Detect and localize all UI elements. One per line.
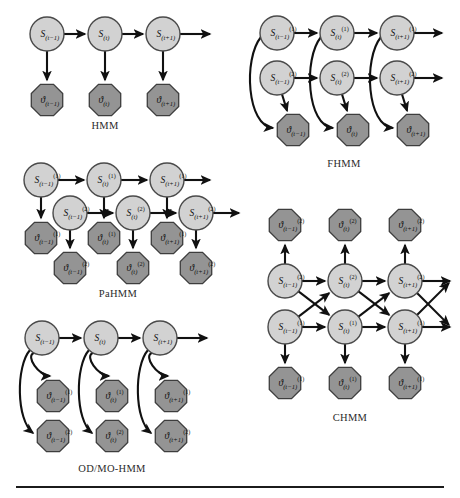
state-node: S(t−1) xyxy=(30,17,64,51)
edge-curved xyxy=(149,353,168,376)
state-node: S(t) xyxy=(88,17,122,51)
state-node: S(t−1)(2) xyxy=(53,196,89,230)
state-node: S(t+1)(1) xyxy=(380,16,416,50)
observation-node: ϑ(t+1)(1) xyxy=(389,367,424,398)
state-node: S(t+1)(2) xyxy=(388,264,424,298)
observation-node: ϑ(t+1)(1) xyxy=(155,380,190,411)
caption-pahmm: PaHMM xyxy=(58,288,178,299)
state-node: S(t)(2) xyxy=(116,196,150,230)
caption-chmm: CHMM xyxy=(290,412,410,423)
state-node: S(t) xyxy=(84,321,118,355)
observation-node: ϑ(t−1)(2) xyxy=(54,252,89,283)
observation-node: ϑ(t−1) xyxy=(277,114,308,145)
observation-node: ϑ(t−1)(1) xyxy=(25,222,60,253)
caption-odmohmm: OD/MO-HMM xyxy=(52,463,172,474)
edge xyxy=(298,291,329,314)
edge-curved xyxy=(138,350,151,433)
edge xyxy=(298,293,329,316)
edge-layer xyxy=(20,33,450,433)
observation-node: ϑ(t−1) xyxy=(31,84,62,115)
state-node: S(t−1) xyxy=(25,321,59,355)
observation-node: ϑ(t)(2) xyxy=(96,420,127,451)
state-node: S(t−1)(2) xyxy=(260,61,296,95)
edge xyxy=(402,94,407,111)
footer-rule xyxy=(16,486,444,488)
observation-node: ϑ(t) xyxy=(89,84,120,115)
observation-node: ϑ(t) xyxy=(337,114,368,145)
state-node: S(t−1)(1) xyxy=(24,163,60,197)
observation-node: ϑ(t)(1) xyxy=(96,380,127,411)
caption-fhmm: FHMM xyxy=(284,158,404,169)
state-node: S(t+1)(1) xyxy=(388,310,424,344)
edge-curved xyxy=(90,353,109,376)
hmm-variants-figure: S(t−1)S(t)S(t+1)ϑ(t−1)ϑ(t)ϑ(t+1)S(t−1)(1… xyxy=(0,0,460,498)
observation-node: ϑ(t)(1) xyxy=(88,222,119,253)
state-node: S(t−1)(1) xyxy=(260,16,296,50)
observation-node: ϑ(t+1) xyxy=(147,84,178,115)
observation-node: ϑ(t+1)(2) xyxy=(180,252,215,283)
state-node: S(t+1) xyxy=(146,17,180,51)
observation-node: ϑ(t)(2) xyxy=(329,209,360,240)
observation-node: ϑ(t)(1) xyxy=(329,367,360,398)
state-node: S(t)(1) xyxy=(87,163,121,197)
observation-node: ϑ(t−1)(2) xyxy=(37,420,72,451)
observation-node: ϑ(t−1)(2) xyxy=(269,209,304,240)
edge xyxy=(358,293,389,316)
edge xyxy=(342,94,347,111)
state-node: S(t)(1) xyxy=(328,310,362,344)
observation-node: ϑ(t+1) xyxy=(397,114,428,145)
caption-hmm: HMM xyxy=(45,120,165,131)
edge-curved xyxy=(20,350,33,433)
observation-node: ϑ(t−1)(1) xyxy=(269,367,304,398)
state-node: S(t+1)(2) xyxy=(380,61,416,95)
edge-curved xyxy=(79,350,92,433)
observation-node: ϑ(t)(2) xyxy=(117,252,148,283)
observation-node: ϑ(t+1)(2) xyxy=(155,420,190,451)
node-layer: S(t−1)S(t)S(t+1)ϑ(t−1)ϑ(t)ϑ(t+1)S(t−1)(1… xyxy=(24,16,429,452)
diagram-canvas: S(t−1)S(t)S(t+1)ϑ(t−1)ϑ(t)ϑ(t+1)S(t−1)(1… xyxy=(0,0,460,498)
state-node: S(t)(2) xyxy=(320,61,354,95)
state-node: S(t)(2) xyxy=(328,264,362,298)
observation-node: ϑ(t−1)(1) xyxy=(37,380,72,411)
state-node: S(t)(1) xyxy=(320,16,354,50)
edge xyxy=(358,291,389,314)
state-node: S(t+1)(2) xyxy=(179,196,215,230)
state-node: S(t+1)(1) xyxy=(150,163,186,197)
edge xyxy=(282,94,287,111)
observation-node: ϑ(t+1)(1) xyxy=(151,222,186,253)
state-node: S(t+1) xyxy=(143,321,177,355)
edge-curved xyxy=(31,353,50,376)
observation-node: ϑ(t+1)(2) xyxy=(389,209,424,240)
